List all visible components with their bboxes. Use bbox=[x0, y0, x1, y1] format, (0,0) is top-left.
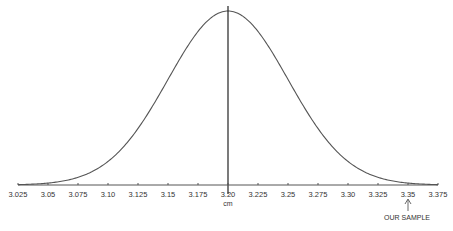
x-tick-label: 3.10 bbox=[101, 190, 116, 199]
x-tick-label: 3.225 bbox=[249, 190, 268, 199]
x-tick-label: 3.075 bbox=[69, 190, 88, 199]
x-tick-label: 3.125 bbox=[129, 190, 148, 199]
x-axis-label: cm bbox=[223, 200, 233, 207]
x-tick-label: 3.325 bbox=[369, 190, 388, 199]
our-sample-annotation: OUR SAMPLE bbox=[384, 199, 430, 221]
x-tick-label: 3.175 bbox=[189, 190, 208, 199]
x-tick-label: 3.20 bbox=[221, 190, 236, 199]
x-tick-label: 3.025 bbox=[9, 190, 28, 199]
x-tick-label: 3.35 bbox=[401, 190, 416, 199]
x-tick-label: 3.30 bbox=[341, 190, 356, 199]
x-tick-label: 3.15 bbox=[161, 190, 176, 199]
x-tick-label: 3.25 bbox=[281, 190, 296, 199]
normal-distribution-chart: 3.0253.053.0753.103.1253.153.1753.203.22… bbox=[0, 0, 453, 231]
x-tick-label: 3.275 bbox=[309, 190, 328, 199]
annotation-label: OUR SAMPLE bbox=[384, 214, 430, 221]
x-tick-label: 3.375 bbox=[429, 190, 448, 199]
x-tick-label: 3.05 bbox=[41, 190, 56, 199]
